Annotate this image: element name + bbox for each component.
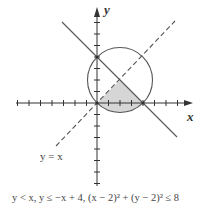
- y-axis-arrow-icon: [94, 7, 100, 17]
- inequality-caption: y < x, y ≤ −x + 4, (x − 2)² + (y − 2)² ≤…: [12, 192, 179, 203]
- dashed-line-label: y = x: [40, 150, 63, 162]
- point-4-0: [141, 101, 144, 104]
- point-0-4: [95, 55, 98, 58]
- x-axis-label: x: [187, 109, 194, 125]
- line-y-eq-x-dashed: [56, 21, 175, 146]
- y-axis-label: y: [104, 2, 110, 18]
- x-axis-arrow-icon: [184, 100, 193, 106]
- point-origin: [95, 101, 98, 104]
- coordinate-plane: [0, 0, 206, 212]
